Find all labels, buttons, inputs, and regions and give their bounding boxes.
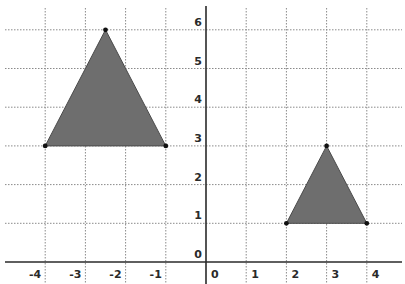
triangle-shape xyxy=(286,146,366,223)
y-tick-label: 2 xyxy=(194,171,202,184)
x-tick-label: -4 xyxy=(29,268,42,281)
x-tick-label: -3 xyxy=(69,268,81,281)
x-tick-label: 0 xyxy=(211,268,219,281)
x-tick-label: 3 xyxy=(332,268,340,281)
coordinate-plane: -4-3-2-1012340123456 xyxy=(0,0,405,284)
x-tick-label: 2 xyxy=(291,268,299,281)
vertex-point xyxy=(324,144,329,149)
y-tick-label: 3 xyxy=(194,132,202,145)
triangle-shape xyxy=(45,30,166,146)
y-tick-label: 4 xyxy=(194,93,202,106)
y-tick-label: 6 xyxy=(194,16,202,29)
vertex-point xyxy=(284,221,289,226)
vertex-point xyxy=(43,144,48,149)
y-tick-label: 1 xyxy=(194,209,202,222)
x-tick-label: 4 xyxy=(372,268,380,281)
vertex-point xyxy=(103,27,108,32)
vertex-point xyxy=(163,144,168,149)
x-tick-label: -2 xyxy=(109,268,121,281)
x-tick-label: -1 xyxy=(150,268,162,281)
x-tick-label: 1 xyxy=(251,268,259,281)
y-tick-label: 5 xyxy=(194,55,202,68)
y-tick-label: 0 xyxy=(194,248,202,261)
vertex-point xyxy=(364,221,369,226)
